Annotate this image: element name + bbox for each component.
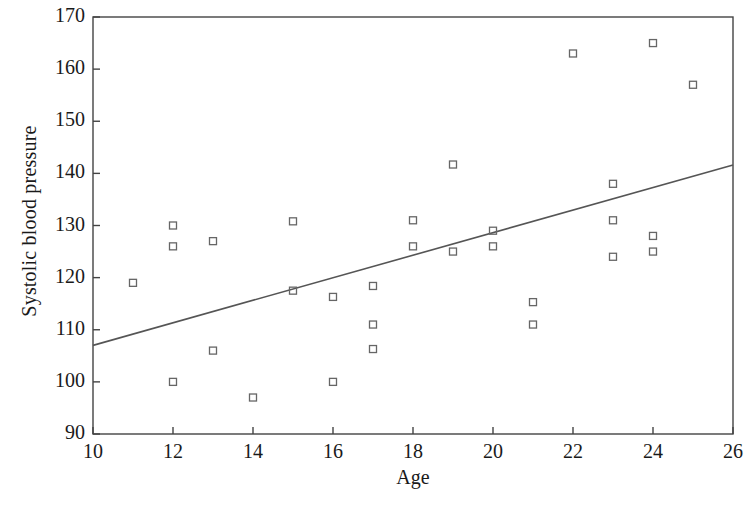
scatter-plot-figure: Systolic blood pressure Age 901001101201… [0, 0, 756, 511]
y-tick-label: 100 [31, 369, 85, 392]
x-tick-label: 14 [228, 440, 278, 463]
data-point-marker [330, 378, 337, 385]
data-point-marker [130, 279, 137, 286]
y-tick-label: 170 [31, 4, 85, 27]
plot-canvas [0, 0, 756, 511]
x-tick-label: 18 [388, 440, 438, 463]
data-point-marker [650, 40, 657, 47]
y-tick-label: 150 [31, 108, 85, 131]
regression-line [93, 165, 733, 345]
x-tick-label: 20 [468, 440, 518, 463]
y-tick-label: 140 [31, 160, 85, 183]
data-points [130, 40, 697, 401]
data-point-marker [690, 81, 697, 88]
x-tick-label: 26 [708, 440, 756, 463]
data-point-marker [170, 222, 177, 229]
y-tick-label: 120 [31, 265, 85, 288]
data-point-marker [650, 248, 657, 255]
data-point-marker [610, 253, 617, 260]
data-point-marker [330, 293, 337, 300]
data-point-marker [410, 243, 417, 250]
data-point-marker [450, 248, 457, 255]
data-point-marker [370, 321, 377, 328]
data-point-marker [370, 346, 377, 353]
data-point-marker [570, 50, 577, 57]
x-tick-label: 24 [628, 440, 678, 463]
y-tick-label: 130 [31, 213, 85, 236]
data-point-marker [610, 180, 617, 187]
axis-frame [93, 17, 733, 434]
data-point-marker [450, 161, 457, 168]
axis-ticks [93, 17, 733, 434]
x-tick-label: 10 [68, 440, 118, 463]
data-point-marker [170, 243, 177, 250]
x-tick-label: 22 [548, 440, 598, 463]
trend-line [93, 165, 733, 345]
data-point-marker [610, 217, 617, 224]
data-point-marker [410, 217, 417, 224]
data-point-marker [250, 394, 257, 401]
data-point-marker [210, 347, 217, 354]
x-tick-label: 16 [308, 440, 358, 463]
data-point-marker [530, 299, 537, 306]
data-point-marker [530, 321, 537, 328]
data-point-marker [290, 218, 297, 225]
y-tick-label: 160 [31, 56, 85, 79]
data-point-marker [170, 378, 177, 385]
data-point-marker [370, 282, 377, 289]
x-tick-label: 12 [148, 440, 198, 463]
y-tick-label: 110 [31, 317, 85, 340]
data-point-marker [210, 238, 217, 245]
data-point-marker [650, 232, 657, 239]
data-point-marker [490, 243, 497, 250]
